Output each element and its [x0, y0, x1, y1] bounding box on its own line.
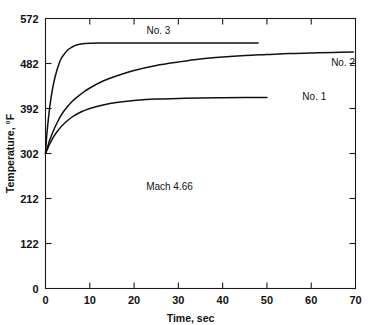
y-tick-label-0: 0: [32, 283, 38, 295]
chart-annotations: Mach 4.66: [146, 181, 193, 192]
series-label-no-2: No. 2: [331, 57, 355, 68]
annotation-0: Mach 4.66: [146, 181, 193, 192]
x-axis-ticks-top: [90, 19, 311, 25]
y-axis-ticks-right: [350, 64, 356, 244]
curve-no-2: [46, 52, 354, 154]
x-axis-tick-labels: 010203040506070: [42, 294, 361, 306]
x-tick-label-40: 40: [217, 294, 229, 306]
y-tick-label-302: 302: [20, 148, 38, 160]
y-tick-label-572: 572: [20, 13, 38, 25]
x-axis-ticks-bottom: [90, 283, 311, 289]
x-tick-label-30: 30: [172, 294, 184, 306]
y-tick-label-122: 122: [20, 238, 38, 250]
series-label-no-1: No. 1: [302, 91, 326, 102]
series-labels: No. 1No. 2No. 3: [146, 25, 355, 102]
y-axis-ticks-left: [46, 64, 52, 244]
y-axis-tick-labels: 0122212302392482572: [20, 13, 38, 295]
y-tick-label-392: 392: [20, 103, 38, 115]
temperature-vs-time-chart: 010203040506070 0122212302392482572 No. …: [0, 0, 379, 325]
x-tick-label-60: 60: [305, 294, 317, 306]
x-tick-label-0: 0: [42, 294, 48, 306]
curve-no-1: [46, 97, 267, 153]
x-tick-label-10: 10: [84, 294, 96, 306]
x-tick-label-50: 50: [261, 294, 273, 306]
x-tick-label-20: 20: [128, 294, 140, 306]
x-axis-title: Time, sec: [167, 312, 215, 324]
y-tick-label-482: 482: [20, 58, 38, 70]
x-tick-label-70: 70: [349, 294, 361, 306]
chart-container: 010203040506070 0122212302392482572 No. …: [0, 0, 379, 325]
series-label-no-3: No. 3: [146, 25, 170, 36]
y-tick-label-212: 212: [20, 193, 38, 205]
y-axis-title: Temperature, °F: [4, 113, 16, 193]
